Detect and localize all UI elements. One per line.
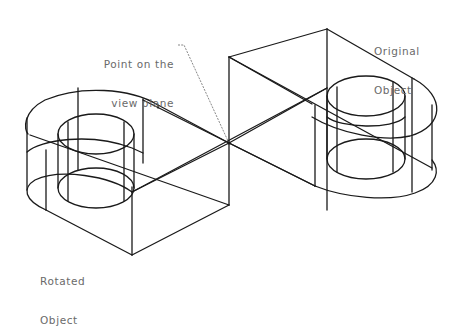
original-object-label: Original Object — [374, 19, 420, 110]
view-point-leader-line — [178, 45, 228, 141]
rotated-object-label-line2: Object — [40, 314, 85, 327]
rotated-hole-bottom-ellipse — [58, 168, 134, 208]
original-box-top-left-edge — [229, 29, 327, 57]
view-point-label: Point on the view plane — [82, 32, 174, 123]
original-object-label-line1: Original — [374, 45, 420, 58]
view-point-label-line2: view plane — [82, 97, 174, 110]
view-plane-point — [227, 141, 230, 144]
view-point-label-line1: Point on the — [82, 58, 174, 71]
rotated-object-label: Rotated Object — [40, 249, 85, 330]
rotated-object-label-line1: Rotated — [40, 275, 85, 288]
original-object-label-line2: Object — [374, 84, 420, 97]
rotated-bottom-right-edge — [132, 205, 229, 255]
